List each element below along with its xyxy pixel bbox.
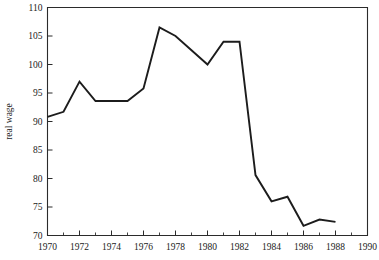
x-tick-label-1976: 1976 <box>134 242 153 252</box>
y-tick-label-100: 100 <box>28 60 43 70</box>
chart-figure: 707580859095100105110 197019721974197619… <box>0 0 379 260</box>
y-axis-title-label: real wage <box>4 103 14 140</box>
x-tick-label-1990: 1990 <box>358 242 377 252</box>
y-tick-label-95: 95 <box>33 88 43 98</box>
x-tick-label-1988: 1988 <box>326 242 345 252</box>
x-tick-label-1970: 1970 <box>38 242 57 252</box>
y-tick-label-85: 85 <box>33 145 43 155</box>
y-tick-label-110: 110 <box>29 3 43 13</box>
figure-background <box>0 0 379 260</box>
y-axis-title: real wage <box>4 103 14 140</box>
x-axis-tick-labels: 1970197219741976197819801982198419861988… <box>38 242 377 252</box>
y-tick-label-80: 80 <box>33 174 43 184</box>
x-tick-label-1984: 1984 <box>262 242 281 252</box>
x-tick-label-1974: 1974 <box>102 242 121 252</box>
y-tick-label-105: 105 <box>28 31 43 41</box>
real-wage-line-chart: 707580859095100105110 197019721974197619… <box>0 0 379 260</box>
x-tick-label-1982: 1982 <box>230 242 249 252</box>
x-tick-label-1978: 1978 <box>166 242 185 252</box>
x-tick-label-1980: 1980 <box>198 242 217 252</box>
y-tick-label-70: 70 <box>33 231 43 241</box>
y-tick-label-75: 75 <box>33 202 43 212</box>
x-tick-label-1986: 1986 <box>294 242 313 252</box>
y-tick-label-90: 90 <box>33 117 43 127</box>
x-tick-label-1972: 1972 <box>70 242 89 252</box>
